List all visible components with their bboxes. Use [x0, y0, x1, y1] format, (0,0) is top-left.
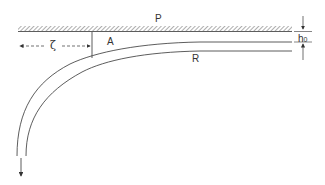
film-lower-edge — [26, 51, 292, 156]
diagram-canvas — [0, 0, 325, 185]
region-label: A — [107, 37, 114, 47]
zeta-label: ζ — [50, 40, 56, 51]
thickness-subscript: 0 — [304, 36, 308, 43]
plate-p — [18, 26, 292, 32]
film-upper-edge — [17, 42, 292, 156]
film-label: R — [192, 54, 199, 64]
thickness-label: h0 — [298, 34, 307, 44]
plate-label: P — [155, 14, 162, 24]
